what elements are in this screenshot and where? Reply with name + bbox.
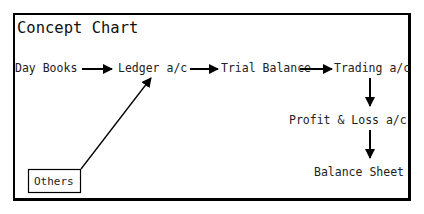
node-others: Others — [34, 175, 74, 188]
node-balance-sheet: Balance Sheet — [314, 165, 404, 179]
arrow-others-to-ledger-icon — [81, 78, 151, 169]
node-trial-balance: Trial Balance — [221, 61, 311, 75]
node-profit-loss: Profit & Loss a/c — [289, 113, 407, 127]
node-trading: Trading a/c — [334, 61, 410, 75]
node-ledger: Ledger a/c — [118, 61, 187, 75]
node-day-books: Day Books — [15, 61, 77, 75]
diagram-title: Concept Chart — [17, 19, 138, 37]
concept-chart-diagram: Concept Chart Day Books Ledger a/c Trial… — [0, 0, 424, 214]
